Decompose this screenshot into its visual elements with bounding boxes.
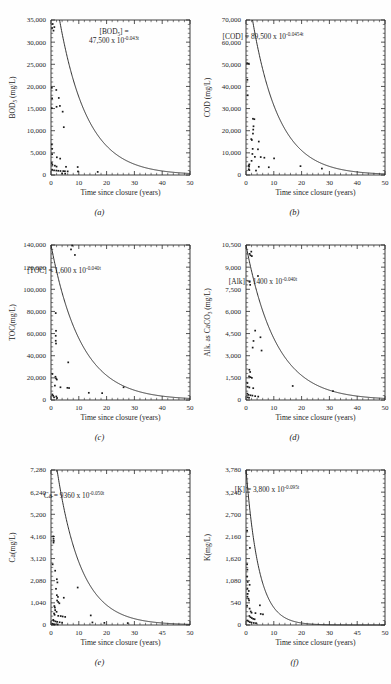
svg-text:40: 40 — [354, 404, 362, 412]
equation-label-e: Ca = 9360 x 10-0.050t — [44, 490, 105, 500]
svg-text:0: 0 — [43, 396, 47, 404]
svg-text:BOD5 (mg/L): BOD5 (mg/L) — [8, 76, 18, 119]
plot-area-e: 01,0402,0803,1204,1605,2006,2407,2800102… — [2, 454, 197, 654]
svg-text:40: 40 — [354, 179, 362, 187]
svg-text:40,000: 40,000 — [27, 352, 47, 360]
svg-text:10: 10 — [270, 179, 278, 187]
svg-text:20: 20 — [103, 629, 111, 637]
svg-text:7,280: 7,280 — [30, 466, 46, 474]
svg-text:1,500: 1,500 — [225, 374, 241, 382]
svg-text:80,000: 80,000 — [27, 308, 47, 316]
svg-text:1,040: 1,040 — [30, 599, 46, 607]
svg-text:10,000: 10,000 — [222, 149, 242, 157]
svg-text:45: 45 — [159, 629, 167, 637]
svg-text:50,000: 50,000 — [222, 61, 242, 69]
svg-text:40: 40 — [159, 404, 167, 412]
svg-text:60,000: 60,000 — [27, 330, 47, 338]
svg-text:30: 30 — [131, 404, 139, 412]
svg-text:0: 0 — [244, 179, 248, 187]
svg-text:50: 50 — [382, 629, 390, 637]
svg-text:3,120: 3,120 — [30, 555, 46, 563]
svg-text:140,000: 140,000 — [23, 241, 46, 249]
svg-text:0: 0 — [49, 404, 53, 412]
svg-text:10: 10 — [75, 404, 83, 412]
svg-text:10,000: 10,000 — [27, 127, 47, 135]
svg-text:Time since closure (years): Time since closure (years) — [275, 188, 356, 197]
equation-label-d: [Alk] = 1400 x 10-0.040t — [229, 276, 298, 286]
svg-text:1,620: 1,620 — [225, 555, 241, 563]
svg-text:4,500: 4,500 — [225, 330, 241, 338]
svg-text:20: 20 — [298, 179, 306, 187]
panel-caption-b: (b) — [197, 207, 391, 217]
svg-text:3,000: 3,000 — [225, 352, 241, 360]
svg-text:3,780: 3,780 — [225, 466, 241, 474]
svg-text:30: 30 — [131, 179, 139, 187]
svg-text:Ca(mg/L): Ca(mg/L) — [8, 532, 17, 562]
data-points-b — [246, 62, 322, 171]
panel-caption-e: (e) — [2, 657, 197, 667]
svg-text:0: 0 — [238, 171, 242, 179]
svg-text:COD (mg/L): COD (mg/L) — [203, 77, 212, 117]
svg-text:540: 540 — [231, 599, 242, 607]
svg-text:40: 40 — [159, 179, 167, 187]
chart-panel-f: 05401,0801,6202,1602,7003,2403,780010203… — [197, 454, 391, 682]
svg-text:2,700: 2,700 — [225, 511, 241, 519]
svg-text:45: 45 — [354, 629, 362, 637]
svg-text:0: 0 — [244, 404, 248, 412]
svg-text:30: 30 — [326, 629, 334, 637]
plot-area-c: 020,00040,00060,00080,000100,000120,0001… — [2, 229, 197, 429]
svg-text:Time since closure (years): Time since closure (years) — [275, 413, 356, 422]
svg-text:20: 20 — [103, 179, 111, 187]
chart-panel-a: 05,00010,00015,00020,00025,00030,00035,0… — [2, 4, 197, 232]
svg-text:0: 0 — [238, 621, 242, 629]
svg-text:0: 0 — [244, 629, 248, 637]
svg-text:30: 30 — [326, 404, 334, 412]
data-points-d — [247, 251, 334, 399]
svg-text:20,000: 20,000 — [27, 83, 47, 91]
plot-area-d: 01,5003,0004,5006,0007,5009,00010,500010… — [197, 229, 391, 429]
panel-caption-f: (f) — [197, 657, 391, 667]
svg-text:70,000: 70,000 — [222, 16, 242, 24]
svg-text:5,200: 5,200 — [30, 511, 46, 519]
figure-container: 05,00010,00015,00020,00025,00030,00035,0… — [0, 0, 391, 684]
svg-text:5,000: 5,000 — [30, 149, 46, 157]
svg-text:20,000: 20,000 — [222, 127, 242, 135]
svg-text:K(mg/L): K(mg/L) — [203, 534, 212, 561]
svg-text:2,080: 2,080 — [30, 577, 46, 585]
svg-text:0: 0 — [49, 629, 53, 637]
svg-text:100,000: 100,000 — [23, 286, 46, 294]
panel-caption-d: (d) — [197, 432, 391, 442]
svg-text:4,160: 4,160 — [30, 533, 46, 541]
svg-text:20: 20 — [298, 629, 306, 637]
chart-panel-e: 01,0402,0803,1204,1605,2006,2407,2800102… — [2, 454, 197, 682]
svg-text:50: 50 — [187, 404, 195, 412]
plot-area-b: 010,00020,00030,00040,00050,00060,00070,… — [197, 4, 391, 204]
svg-text:0: 0 — [238, 396, 242, 404]
svg-text:0: 0 — [49, 179, 53, 187]
svg-text:1,080: 1,080 — [225, 577, 241, 585]
svg-text:50: 50 — [187, 629, 195, 637]
chart-panel-c: 020,00040,00060,00080,000100,000120,0001… — [2, 229, 197, 457]
equation-label-b: [COD] = 89,500 x 10-0.0454t — [223, 31, 304, 41]
svg-text:35,000: 35,000 — [27, 16, 47, 24]
svg-text:20,000: 20,000 — [27, 374, 47, 382]
svg-text:15,000: 15,000 — [27, 105, 47, 113]
svg-text:20: 20 — [298, 404, 306, 412]
svg-text:0: 0 — [43, 171, 47, 179]
chart-panel-d: 01,5003,0004,5006,0007,5009,00010,500010… — [197, 229, 391, 457]
svg-text:50: 50 — [187, 179, 195, 187]
equation-label-f: [K] = 3,800 x 10-0.095t — [235, 484, 300, 494]
plot-area-f: 05401,0801,6202,1602,7003,2403,780010203… — [197, 454, 391, 654]
svg-text:9,000: 9,000 — [225, 264, 241, 272]
svg-text:50: 50 — [382, 179, 390, 187]
svg-text:30,000: 30,000 — [27, 39, 47, 47]
svg-text:20: 20 — [103, 404, 111, 412]
data-points-a — [51, 23, 99, 174]
svg-text:10,500: 10,500 — [222, 241, 242, 249]
equation-label-a: [BOD5] =47,500 x 10-0.043t — [89, 27, 140, 45]
svg-text:10: 10 — [270, 404, 278, 412]
panel-caption-a: (a) — [2, 207, 197, 217]
svg-text:Time since closure (years): Time since closure (years) — [275, 638, 356, 647]
svg-text:7,500: 7,500 — [225, 286, 241, 294]
svg-text:30,000: 30,000 — [222, 105, 242, 113]
